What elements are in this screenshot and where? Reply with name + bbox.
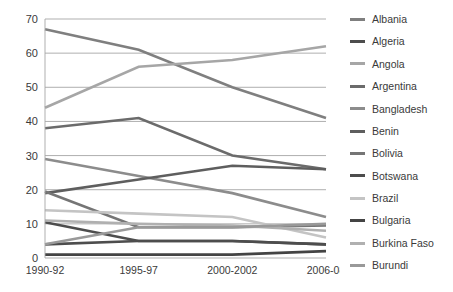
legend-item[interactable]: Brazil: [350, 187, 453, 209]
legend-item-label: Benin: [372, 126, 399, 137]
legend-item-label: Angola: [372, 59, 405, 70]
legend-swatch-icon: [350, 219, 365, 222]
x-axis-tick-label: 2006-08: [307, 264, 340, 276]
legend-item[interactable]: Argentina: [350, 75, 453, 97]
series-line: [45, 46, 326, 107]
legend-item-label: Bolivia: [372, 148, 403, 159]
x-axis-tick-label: 1995-97: [119, 264, 158, 276]
legend-swatch-icon: [350, 264, 365, 267]
y-axis-tick-labels: 010203040506070: [26, 13, 38, 264]
series-line: [45, 118, 326, 169]
line-chart: 010203040506070 1990-921995-972000-20022…: [0, 0, 453, 292]
legend-swatch-icon: [350, 130, 365, 133]
y-axis-tick-label: 70: [26, 13, 38, 25]
y-axis-tick-label: 20: [26, 184, 38, 196]
chart-legend: AlbaniaAlgeriaAngolaArgentinaBangladeshB…: [350, 8, 453, 277]
x-axis-tick-label: 2000-2002: [207, 264, 257, 276]
legend-item-label: Burundi: [372, 260, 408, 271]
legend-swatch-icon: [350, 40, 365, 43]
legend-item[interactable]: Burkina Faso: [350, 232, 453, 254]
series-line: [45, 166, 326, 193]
legend-item-label: Argentina: [372, 81, 417, 92]
legend-item[interactable]: Botswana: [350, 165, 453, 187]
chart-canvas: 010203040506070 1990-921995-972000-20022…: [0, 0, 340, 292]
legend-item[interactable]: Bangladesh: [350, 98, 453, 120]
legend-swatch-icon: [350, 107, 365, 110]
legend-item[interactable]: Angola: [350, 53, 453, 75]
legend-item-label: Botswana: [372, 171, 418, 182]
legend-swatch-icon: [350, 85, 365, 88]
legend-swatch-icon: [350, 197, 365, 200]
plot-area: 010203040506070 1990-921995-972000-20022…: [0, 0, 340, 292]
legend-swatch-icon: [350, 62, 365, 65]
data-series-group: [45, 29, 326, 254]
legend-item[interactable]: Bulgaria: [350, 210, 453, 232]
legend-swatch-icon: [350, 174, 365, 177]
legend-item-label: Albania: [372, 14, 407, 25]
legend-swatch-icon: [350, 152, 365, 155]
legend-item-label: Bangladesh: [372, 104, 427, 115]
y-axis-tick-label: 30: [26, 150, 38, 162]
legend-item-label: Bulgaria: [372, 215, 411, 226]
legend-swatch-icon: [350, 242, 365, 245]
legend-item[interactable]: Albania: [350, 8, 453, 30]
y-axis-tick-label: 60: [26, 47, 38, 59]
legend-item[interactable]: Algeria: [350, 30, 453, 52]
legend-item[interactable]: Benin: [350, 120, 453, 142]
y-axis-tick-label: 10: [26, 218, 38, 230]
series-line: [45, 251, 326, 254]
y-axis-tick-label: 40: [26, 115, 38, 127]
y-axis-tick-label: 0: [32, 252, 38, 264]
series-line: [45, 29, 326, 118]
legend-item[interactable]: Burundi: [350, 254, 453, 276]
legend-item-label: Burkina Faso: [372, 238, 434, 249]
legend-item-label: Brazil: [372, 193, 398, 204]
legend-item-label: Algeria: [372, 36, 405, 47]
x-axis-tick-labels: 1990-921995-972000-20022006-08: [26, 264, 340, 276]
y-axis-tick-label: 50: [26, 81, 38, 93]
x-axis-tick-label: 1990-92: [26, 264, 65, 276]
legend-swatch-icon: [350, 18, 365, 21]
legend-item[interactable]: Bolivia: [350, 142, 453, 164]
